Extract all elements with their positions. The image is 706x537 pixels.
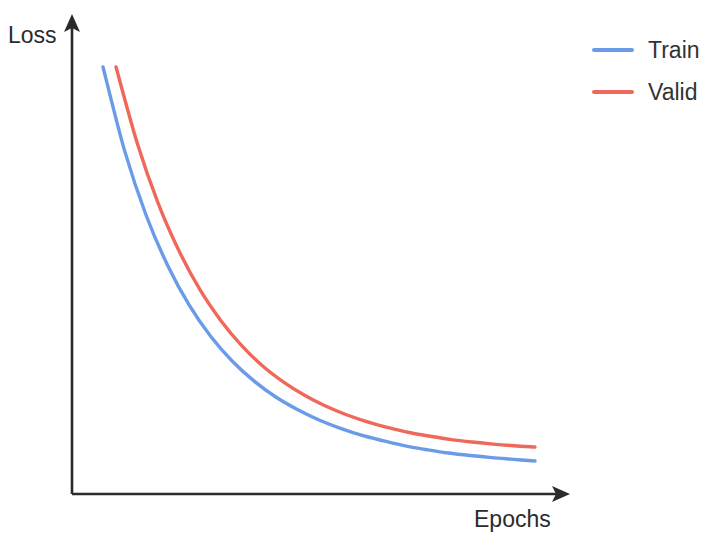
legend-label-train: Train <box>648 39 700 62</box>
y-axis-label: Loss <box>8 24 57 47</box>
legend-color-swatch-train <box>592 48 634 52</box>
legend-item-train: Train <box>592 36 700 64</box>
legend-color-swatch-valid <box>592 90 634 94</box>
x-axis-label: Epochs <box>474 508 551 531</box>
legend-label-valid: Valid <box>648 81 697 104</box>
series-line-valid <box>116 67 535 447</box>
legend-item-valid: Valid <box>592 78 700 106</box>
y-axis <box>64 14 80 494</box>
x-axis <box>72 486 570 502</box>
legend: Train Valid <box>592 36 700 106</box>
loss-curve-figure: Loss Epochs Train Valid <box>0 0 706 537</box>
